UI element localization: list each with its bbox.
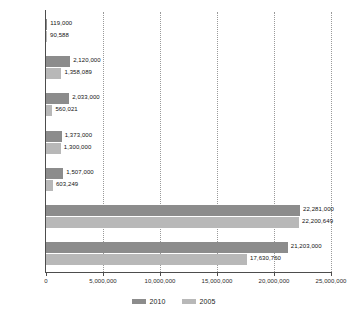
bar-2005[interactable] [46, 105, 52, 116]
legend-label-2010: 2010 [150, 298, 166, 305]
bar-2005[interactable] [46, 68, 61, 79]
bar-value-label: 1,358,089 [64, 69, 92, 75]
bar-group: 22,281,00022,200,649 [46, 205, 331, 228]
legend-swatch-icon-2010 [132, 299, 146, 304]
x-tick-label: 15,000,000 [201, 278, 232, 284]
gridline [331, 12, 332, 272]
bar-group: 1,507,000603,249 [46, 168, 331, 191]
bar-2010[interactable] [46, 56, 70, 67]
chart-legend: 2010 2005 [0, 298, 347, 305]
x-tick-mark [46, 272, 47, 276]
x-tick-label: 0 [44, 278, 47, 284]
x-tick-label: 10,000,000 [144, 278, 175, 284]
bar-2005[interactable] [46, 31, 47, 42]
bar-value-label: 90,588 [50, 32, 69, 38]
bar-2010[interactable] [46, 168, 63, 179]
bar-value-label: 17,630,760 [250, 255, 281, 261]
bar-2005[interactable] [46, 180, 53, 191]
bar-2005[interactable] [46, 143, 61, 154]
bar-value-label: 119,000 [50, 20, 72, 26]
bar-group: 2,033,000560,021 [46, 93, 331, 116]
bar-group: 2,120,0001,358,089 [46, 56, 331, 79]
bar-2005[interactable] [46, 254, 247, 265]
bar-2010[interactable] [46, 205, 300, 216]
x-tick-label: 5,000,000 [89, 278, 117, 284]
bar-chart: 119,00090,5882,120,0001,358,0892,033,000… [0, 0, 347, 317]
x-tick-label: 25,000,000 [315, 278, 346, 284]
bar-2010[interactable] [46, 19, 47, 30]
bar-value-label: 22,281,000 [303, 206, 334, 212]
bar-value-label: 21,203,000 [291, 243, 322, 249]
bar-group: 119,00090,588 [46, 19, 331, 42]
legend-swatch-icon-2005 [182, 299, 196, 304]
bar-group: 21,203,00017,630,760 [46, 242, 331, 265]
bar-group: 1,373,0001,300,000 [46, 131, 331, 154]
bar-value-label: 560,021 [55, 106, 77, 112]
bar-value-label: 2,033,000 [72, 94, 100, 100]
bar-value-label: 1,300,000 [64, 144, 92, 150]
bar-2010[interactable] [46, 131, 62, 142]
legend-entry-2010[interactable]: 2010 [132, 298, 166, 305]
bar-value-label: 603,249 [56, 181, 78, 187]
bar-value-label: 1,507,000 [66, 169, 94, 175]
bar-2010[interactable] [46, 242, 288, 253]
x-tick-mark [217, 272, 218, 276]
legend-label-2005: 2005 [200, 298, 216, 305]
bar-value-label: 1,373,000 [65, 132, 93, 138]
bar-value-label: 22,200,649 [302, 218, 333, 224]
x-axis-line [46, 272, 332, 273]
x-tick-mark [331, 272, 332, 276]
x-tick-mark [160, 272, 161, 276]
y-axis-line [45, 10, 46, 273]
bar-2005[interactable] [46, 217, 299, 228]
legend-entry-2005[interactable]: 2005 [182, 298, 216, 305]
plot-area: 119,00090,5882,120,0001,358,0892,033,000… [46, 12, 331, 272]
bar-2010[interactable] [46, 93, 69, 104]
x-tick-mark [274, 272, 275, 276]
x-tick-mark [103, 272, 104, 276]
x-tick-label: 20,000,000 [258, 278, 289, 284]
bar-value-label: 2,120,000 [73, 57, 101, 63]
